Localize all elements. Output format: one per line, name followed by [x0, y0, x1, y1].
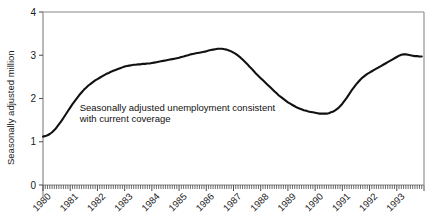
y-tick-label: 3 [30, 50, 36, 61]
x-tick-label: 1987 [221, 191, 244, 214]
x-tick-label: 1993 [384, 191, 407, 214]
x-tick-label: 1986 [193, 191, 216, 214]
x-tick-label: 1989 [275, 191, 298, 214]
x-tick-label: 1981 [57, 191, 80, 214]
x-tick-label: 1992 [357, 191, 380, 214]
y-axis-ticks: 01234 [30, 7, 43, 191]
x-axis-tick-labels: 1980198119821983198419851986198719881989… [30, 191, 407, 214]
x-tick-label: 1982 [85, 191, 108, 214]
x-tick-label: 1980 [30, 191, 53, 214]
x-tick-label: 1984 [139, 191, 162, 214]
series-annotation-line-1: Seasonally adjusted unemployment consist… [80, 102, 276, 113]
x-axis-ticks [43, 185, 424, 191]
x-tick-label: 1983 [112, 191, 135, 214]
y-tick-label: 2 [30, 93, 36, 104]
y-tick-label: 4 [30, 7, 36, 18]
y-tick-label: 1 [30, 136, 36, 147]
series-annotation-line-2: with current coverage [79, 113, 171, 124]
y-tick-label: 0 [30, 180, 36, 191]
unemployment-line-chart: 01234 1980198119821983198419851986198719… [0, 0, 435, 224]
chart-figure: 01234 1980198119821983198419851986198719… [0, 0, 435, 224]
x-tick-label: 1988 [248, 191, 271, 214]
x-tick-label: 1990 [302, 191, 325, 214]
y-axis-title: Seasonally adjusted million [5, 50, 16, 165]
x-tick-label: 1991 [330, 191, 353, 214]
x-tick-label: 1985 [166, 191, 189, 214]
